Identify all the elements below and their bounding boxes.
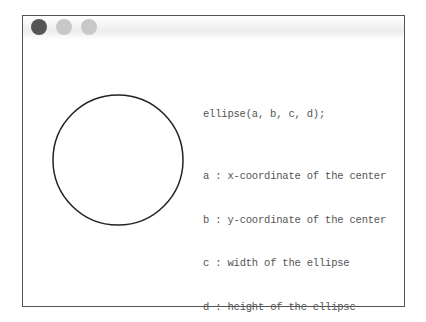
param-desc: x-coordinate of the center: [227, 170, 386, 182]
param-row-c: c : width of the ellipse: [203, 256, 386, 271]
param-row-a: a : x-coordinate of the center: [203, 169, 386, 184]
param-sep: :: [215, 257, 221, 269]
param-key: c: [203, 257, 209, 269]
param-desc: width of the ellipse: [227, 257, 349, 269]
param-sep: :: [215, 170, 221, 182]
param-sep: :: [215, 301, 221, 313]
param-sep: :: [215, 214, 221, 226]
param-key: d: [203, 301, 209, 313]
window-frame: ellipse(a, b, c, d); a : x-coordinate of…: [22, 15, 405, 307]
param-desc: y-coordinate of the center: [227, 214, 386, 226]
param-key: a: [203, 170, 209, 182]
param-row-d: d : height of the ellipse: [203, 300, 386, 315]
function-signature: ellipse(a, b, c, d);: [203, 108, 325, 120]
param-row-b: b : y-coordinate of the center: [203, 213, 386, 228]
circle-shape: [53, 95, 183, 225]
param-key: b: [203, 214, 209, 226]
param-desc: height of the ellipse: [227, 301, 355, 313]
parameter-list: a : x-coordinate of the center b : y-coo…: [203, 140, 386, 322]
